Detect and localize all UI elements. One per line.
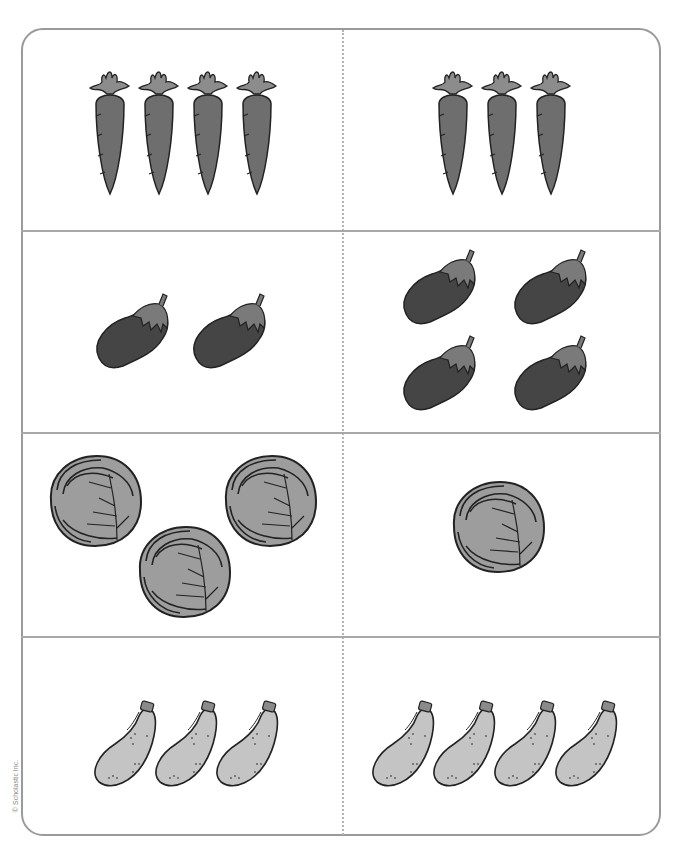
card-zucchini-4[interactable] (344, 638, 660, 834)
card-carrots-3[interactable] (344, 30, 660, 230)
card-cabbages-1[interactable] (344, 434, 660, 636)
carrot-icon (551, 98, 685, 248)
copyright-notice: © Scholastic Inc. (12, 756, 24, 816)
card-zucchini-3[interactable] (23, 638, 341, 834)
card-eggplants-2[interactable] (23, 232, 341, 432)
zucchini-icon (590, 742, 685, 859)
card-carrots-4[interactable] (23, 30, 341, 230)
card-cabbages-3[interactable] (23, 434, 341, 636)
card-eggplants-4[interactable] (344, 232, 660, 432)
